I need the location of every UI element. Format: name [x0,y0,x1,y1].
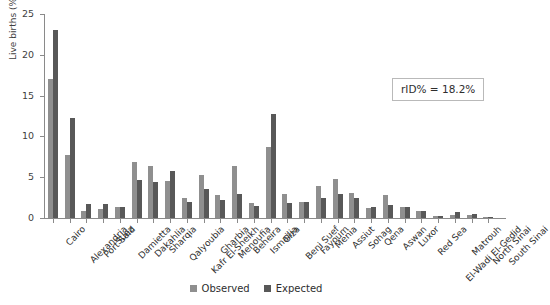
x-tick [153,219,154,223]
y-tick: 25 [40,14,44,15]
bar-group [199,14,209,218]
legend-label: Expected [276,283,323,294]
y-tick: 20 [40,55,44,56]
x-tick [455,219,456,223]
legend-item: Observed [190,283,250,294]
x-tick [338,219,339,223]
legend-label: Observed [202,283,250,294]
bar-group [383,14,393,218]
bar-expected [388,205,393,218]
y-axis-line [44,14,45,218]
y-tick-label: 0 [28,212,34,223]
bar-group [65,14,75,218]
x-tick [388,219,389,223]
legend-item: Expected [264,283,323,294]
x-tick [254,219,255,223]
x-tick [438,219,439,223]
x-tick [53,219,54,223]
y-tick-label: 15 [22,90,34,101]
bar-group [333,14,343,218]
x-tick [321,219,322,223]
x-tick [86,219,87,223]
bar-expected [354,198,359,218]
bar-expected [237,194,242,218]
bar-group [467,14,477,218]
bar-group [81,14,91,218]
x-tick [220,219,221,223]
bar-group [148,14,158,218]
x-tick [287,219,288,223]
bar-group [115,14,125,218]
bar-expected [271,114,276,218]
x-tick [405,219,406,223]
bar-expected [53,30,58,218]
x-tick [488,219,489,223]
bar-expected [287,203,292,218]
bar-expected [103,204,108,218]
x-tick [204,219,205,223]
y-tick: 0 [40,218,44,219]
x-tick [304,219,305,223]
bar-expected [254,206,259,218]
y-tick: 10 [40,136,44,137]
rid-annotation: rID% = 18.2% [392,78,484,101]
bar-group [366,14,376,218]
bar-group [249,14,259,218]
bar-expected [304,202,309,218]
bar-group [433,14,443,218]
bar-expected [170,171,175,218]
bar-expected [137,180,142,218]
x-axis-line [44,218,506,219]
bar-group [400,14,410,218]
legend-swatch-icon [190,285,197,292]
bar-expected [338,194,343,218]
bar-expected [488,217,493,218]
x-tick [421,219,422,223]
bar-group [132,14,142,218]
x-tick-label: Cairo [64,224,88,248]
bar-expected [455,212,460,218]
bar-expected [371,207,376,218]
bar-group [416,14,426,218]
y-axis-title: Live births (%) [8,0,18,60]
legend-swatch-icon [264,285,271,292]
bar-group [165,14,175,218]
x-tick-label: Red Sea [436,224,469,257]
bar-expected [187,202,192,218]
y-tick: 15 [40,96,44,97]
bar-group [182,14,192,218]
bar-expected [472,214,477,218]
x-tick [103,219,104,223]
x-tick [371,219,372,223]
x-tick [271,219,272,223]
bar-group [349,14,359,218]
legend: ObservedExpected [0,283,512,294]
bar-group [48,14,58,218]
bar-expected [153,182,158,218]
y-tick-label: 10 [22,130,34,141]
y-tick-label: 25 [22,8,34,19]
x-tick [170,219,171,223]
y-tick: 5 [40,177,44,178]
x-tick [472,219,473,223]
bar-expected [204,189,209,218]
x-tick [187,219,188,223]
y-tick-label: 20 [22,49,34,60]
bar-group [299,14,309,218]
bar-expected [220,200,225,218]
x-tick [237,219,238,223]
bar-group [98,14,108,218]
bar-expected [421,211,426,218]
bar-expected [120,207,125,218]
plot-area: 0510152025 [44,14,506,218]
bar-expected [405,207,410,218]
x-tick [120,219,121,223]
bar-expected [321,198,326,218]
bar-group [282,14,292,218]
bar-group [215,14,225,218]
x-tick [137,219,138,223]
bar-group [266,14,276,218]
x-tick [70,219,71,223]
x-tick [354,219,355,223]
